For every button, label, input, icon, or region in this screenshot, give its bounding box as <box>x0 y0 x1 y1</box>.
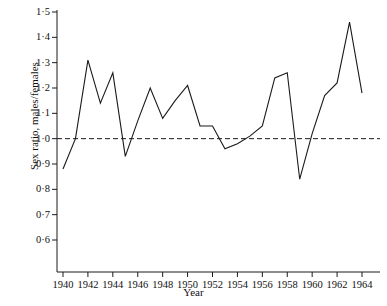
y-tick-label: 1·5 <box>10 7 50 18</box>
y-axis-ticks <box>52 12 57 240</box>
y-axis-title: Sex ratio, males/females <box>28 36 40 196</box>
y-tick-label: 0·6 <box>10 235 50 246</box>
sex-ratio-line-chart: 1·51·41·31·21·11·00·90·80·70·6 194019421… <box>0 0 387 306</box>
x-axis-title: Year <box>0 286 387 298</box>
data-series-group <box>63 22 362 179</box>
plot-area <box>0 0 387 306</box>
x-axis-ticks <box>63 272 362 277</box>
y-tick-label: 0·7 <box>10 210 50 221</box>
data-line-sex-ratio <box>63 22 362 179</box>
axis-lines <box>57 10 380 272</box>
